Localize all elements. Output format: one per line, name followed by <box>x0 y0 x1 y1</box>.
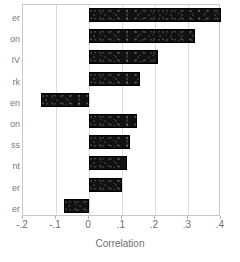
bar <box>89 29 195 43</box>
x-axis-tick-label: -.1 <box>40 219 70 230</box>
bar <box>89 135 130 149</box>
bar <box>89 72 140 86</box>
bar-row <box>23 69 219 90</box>
y-axis-category-label: er <box>0 8 20 29</box>
bar-row <box>23 132 219 153</box>
y-axis-category-label: ss <box>0 135 20 156</box>
y-axis-category-label: rk <box>0 72 20 93</box>
bar-row <box>23 5 219 26</box>
bar <box>89 156 127 170</box>
bar-row <box>23 90 219 111</box>
correlation-bar-chart: eronIVrkenonssnterer -.2-.10.1.2.3.4 Cor… <box>0 0 240 262</box>
y-axis-category-label: er <box>0 199 20 220</box>
bar <box>41 93 89 107</box>
x-axis-tick-label: .1 <box>106 219 136 230</box>
y-axis-category-label: on <box>0 114 20 135</box>
bar <box>89 114 137 128</box>
bar-row <box>23 47 219 68</box>
y-axis-category-label: nt <box>0 156 20 177</box>
x-axis-tick-label: 0 <box>73 219 103 230</box>
plot-area <box>22 4 220 216</box>
bar <box>89 50 158 64</box>
x-axis-tick-label: .2 <box>139 219 169 230</box>
bar-row <box>23 153 219 174</box>
x-axis-tick-label: .4 <box>205 219 235 230</box>
x-axis: -.2-.10.1.2.3.4 <box>22 216 220 234</box>
bar-row <box>23 111 219 132</box>
bar <box>64 199 89 213</box>
bar <box>89 8 221 22</box>
x-axis-title: Correlation <box>0 238 240 249</box>
y-axis-category-label: IV <box>0 50 20 71</box>
bar-row <box>23 175 219 196</box>
bar-row <box>23 26 219 47</box>
x-axis-tick-label: .3 <box>172 219 202 230</box>
x-axis-tick-label: -.2 <box>7 219 37 230</box>
bar <box>89 178 122 192</box>
bar-row <box>23 196 219 217</box>
y-axis-category-label: on <box>0 29 20 50</box>
y-axis-category-label: en <box>0 93 20 114</box>
y-axis-category-label: er <box>0 178 20 199</box>
